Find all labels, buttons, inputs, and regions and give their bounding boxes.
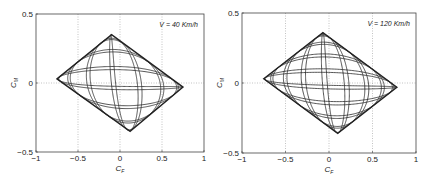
y-tick-label: 0.5 xyxy=(228,9,240,18)
x-tick-label: 0.5 xyxy=(156,154,168,163)
y-tick-label: 0 xyxy=(29,79,34,88)
grid xyxy=(36,14,204,152)
x-axis-label: CF xyxy=(116,164,126,174)
grid xyxy=(242,13,416,153)
data-trajectory xyxy=(264,33,397,133)
x-tick-label: 0 xyxy=(118,154,123,163)
chart-panel-right: −1−0.500.51−0.500.5CFCMV = 120 Km/h xyxy=(215,9,419,175)
x-tick-label: 1 xyxy=(414,155,419,164)
figure: −1−0.500.51−0.500.5CFCMV = 40 Km/h −1−0.… xyxy=(0,0,432,182)
chart-panel-left: −1−0.500.51−0.500.5CFCMV = 40 Km/h xyxy=(9,10,207,174)
x-tick-label: −0.5 xyxy=(70,154,86,163)
x-tick-label: −0.5 xyxy=(278,155,294,164)
y-tick-label: −0.5 xyxy=(223,149,239,158)
x-tick-label: 1 xyxy=(202,154,207,163)
x-tick-label: 0.5 xyxy=(367,155,379,164)
y-axis-label: CM xyxy=(9,77,19,88)
speed-annotation: V = 40 Km/h xyxy=(159,21,198,28)
data-trajectory xyxy=(58,35,183,131)
y-tick-label: 0 xyxy=(235,79,240,88)
x-tick-label: 0 xyxy=(327,155,332,164)
y-tick-label: −0.5 xyxy=(17,148,33,157)
y-tick-label: 0.5 xyxy=(22,10,34,19)
x-axis-label: CF xyxy=(325,165,335,175)
speed-annotation: V = 120 Km/h xyxy=(367,20,410,27)
y-axis-label: CM xyxy=(215,77,225,88)
